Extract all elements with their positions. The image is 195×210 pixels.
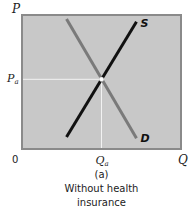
- equilibrium-point: [99, 77, 103, 81]
- x-axis-label: Q: [178, 153, 188, 167]
- quantity-label-main: Q: [96, 154, 105, 167]
- origin-label: 0: [12, 154, 18, 165]
- y-axis-label: P: [11, 2, 21, 16]
- panel-label: (a): [95, 169, 109, 180]
- equilibrium-price-label: Pa: [6, 72, 19, 86]
- supply-curve-label: S: [140, 17, 148, 30]
- caption-line-1: Without health: [65, 183, 139, 194]
- demand-curve-label: D: [140, 132, 149, 145]
- equilibrium-quantity-label: Qa: [96, 154, 109, 168]
- price-label-sub: a: [14, 78, 18, 86]
- supply-demand-chart: DS P Q 0 Pa Qa (a) Without health insura…: [0, 0, 195, 210]
- quantity-label-sub: a: [105, 160, 109, 168]
- caption-line-2: insurance: [77, 197, 126, 208]
